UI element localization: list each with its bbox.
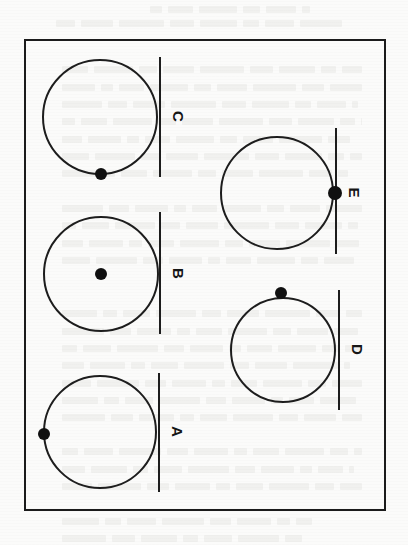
bleed-text-fragment — [243, 6, 260, 13]
bleed-text-fragment — [62, 518, 99, 525]
bleed-text-fragment — [81, 20, 113, 27]
bleed-text-fragment — [296, 518, 312, 525]
bleed-text-fragment — [285, 535, 302, 542]
tangent-line-d — [338, 290, 340, 410]
bleed-text-fragment — [162, 518, 204, 525]
point-marker-a — [38, 428, 50, 440]
bleed-text-fragment — [170, 20, 194, 27]
bleed-text-fragment — [119, 20, 164, 27]
tangent-line-b — [159, 212, 161, 334]
bleed-text-fragment — [199, 6, 237, 13]
bleed-text-fragment — [112, 535, 135, 542]
bleed-text-fragment — [105, 518, 121, 525]
point-marker-d — [275, 287, 287, 299]
point-marker-c — [95, 168, 107, 180]
point-marker-b — [95, 268, 107, 280]
bleed-text-fragment — [127, 518, 156, 525]
bleed-text-fragment — [277, 518, 290, 525]
bleed-text-fragment — [237, 518, 271, 525]
bleed-text-fragment — [302, 6, 310, 13]
panel-label-c: C — [171, 111, 186, 122]
bleed-text-fragment — [200, 20, 237, 27]
point-marker-e — [328, 186, 342, 200]
circle-e — [220, 136, 334, 250]
bleed-text-fragment — [150, 6, 162, 13]
panel-label-e: E — [347, 187, 362, 197]
bleed-text-fragment — [168, 6, 193, 13]
bleed-text-fragment — [56, 20, 75, 27]
bleed-text-fragment — [183, 535, 198, 542]
panel-label-d: D — [350, 344, 365, 355]
bleed-text-fragment — [141, 535, 177, 542]
bleed-text-fragment — [62, 535, 106, 542]
circle-c — [42, 59, 158, 175]
scanned-page: ABCDE — [0, 0, 408, 545]
tangent-line-a — [158, 373, 160, 492]
circle-a — [43, 375, 157, 489]
panel-label-b: B — [171, 268, 186, 279]
circle-d — [230, 297, 336, 403]
bleed-text-fragment — [243, 20, 259, 27]
bleed-text-fragment — [204, 535, 232, 542]
bleed-text-fragment — [265, 20, 294, 27]
bleed-text-fragment — [238, 535, 279, 542]
bleed-text-fragment — [300, 20, 342, 27]
tangent-line-c — [159, 57, 161, 177]
panel-label-a: A — [170, 426, 185, 437]
bleed-text-fragment — [210, 518, 231, 525]
bleed-text-fragment — [266, 6, 296, 13]
